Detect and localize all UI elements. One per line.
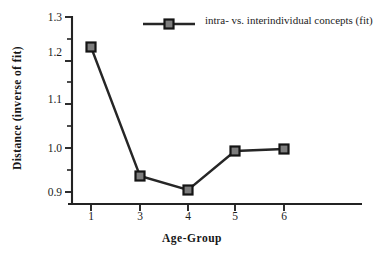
y-tick-label-4: 1.0 [28, 142, 62, 154]
x-tick-label-4: 5 [223, 210, 247, 222]
data-point-1 [87, 43, 96, 52]
legend-marker-icon [165, 20, 174, 29]
chart-plot-area [0, 0, 384, 263]
x-axis-title: Age-Group [0, 232, 384, 244]
legend-swatch [143, 20, 195, 29]
x-tick-label-2: 3 [128, 210, 152, 222]
y-tick-label-1: 1.3 [28, 11, 62, 23]
data-point-2 [136, 172, 145, 181]
y-tick-label-5: 0.9 [28, 186, 62, 198]
y-axis-title: Distance (inverse of fit) [11, 45, 23, 169]
x-tick-label-1: 1 [79, 210, 103, 222]
data-point-3 [184, 186, 193, 195]
data-point-markers [87, 43, 289, 195]
y-tick-label-3: 1.1 [28, 93, 62, 105]
x-tick-label-5: 6 [272, 210, 296, 222]
data-point-4 [231, 147, 240, 156]
y-axis-title-container: Distance (inverse of fit) [0, 0, 34, 215]
chart-figure: Distance (inverse of fit) 1.3 1.2 1.1 1.… [0, 0, 384, 263]
legend-label: intra- vs. interindividual concepts (fit… [205, 14, 373, 26]
data-point-5 [280, 145, 289, 154]
data-series-line [91, 47, 284, 190]
y-tick-label-2: 1.2 [28, 46, 62, 58]
x-tick-label-3: 4 [176, 210, 200, 222]
